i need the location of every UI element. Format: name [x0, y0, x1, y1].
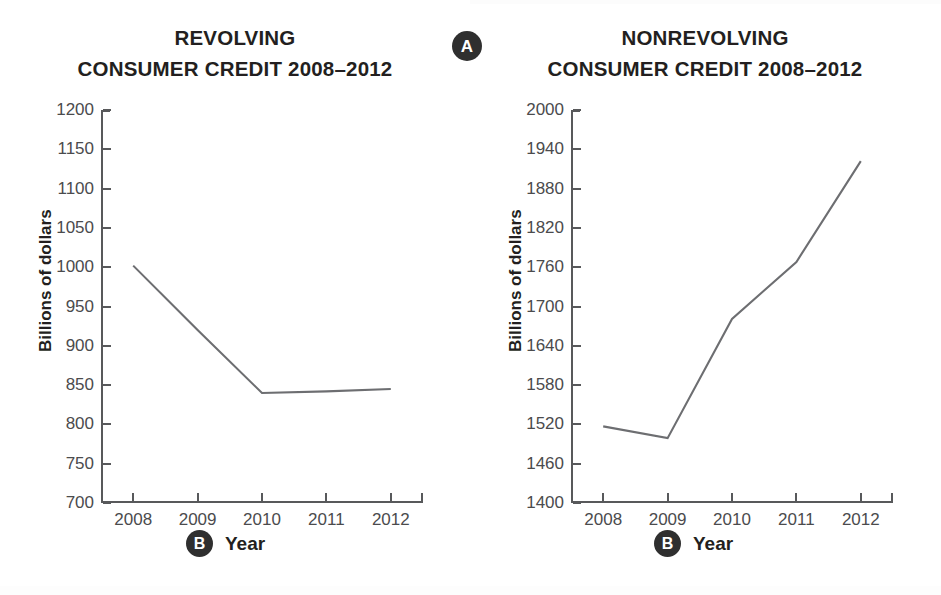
data-line-nonrevolving: [571, 110, 893, 503]
chart-title-line2: CONSUMER CREDIT 2008–2012: [0, 53, 470, 84]
y-tick-label-revolving: 1050: [56, 218, 94, 238]
x-tick-nonrevolving: [602, 493, 604, 501]
x-tick-nonrevolving: [795, 493, 797, 501]
y-tick-label-nonrevolving: 1940: [526, 139, 564, 159]
plot-area-revolving: 7007508008509009501000105011001150120020…: [101, 110, 423, 503]
y-tick-nonrevolving: [573, 148, 581, 150]
y-tick-label-revolving: 1200: [56, 100, 94, 120]
y-tick-label-nonrevolving: 1400: [526, 493, 564, 513]
plot-area-nonrevolving: 1400146015201580164017001760182018801940…: [571, 110, 893, 503]
y-tick-nonrevolving: [573, 266, 581, 268]
x-tick-revolving: [197, 493, 199, 501]
y-tick-label-revolving: 800: [66, 414, 94, 434]
y-tick-nonrevolving: [573, 306, 581, 308]
y-tick-revolving: [103, 345, 111, 347]
x-tick-label-nonrevolving: 2009: [649, 510, 687, 530]
y-tick-nonrevolving: [573, 502, 581, 504]
y-tick-revolving: [103, 227, 111, 229]
chart-panel-revolving: REVOLVING CONSUMER CREDIT 2008–2012 Bill…: [0, 0, 470, 595]
y-tick-label-nonrevolving: 1700: [526, 297, 564, 317]
y-tick-label-revolving: 1100: [57, 179, 94, 199]
y-tick-revolving: [103, 463, 111, 465]
y-tick-revolving: [103, 148, 111, 150]
x-tick-revolving: [390, 493, 392, 501]
y-tick-revolving: [103, 188, 111, 190]
chart-title-line2: CONSUMER CREDIT 2008–2012: [470, 53, 940, 84]
y-tick-label-revolving: 750: [66, 454, 94, 474]
y-tick-label-revolving: 700: [66, 493, 94, 513]
x-axis-title-revolving: B Year: [186, 530, 265, 557]
x-tick-label-nonrevolving: 2012: [842, 510, 880, 530]
y-tick-label-nonrevolving: 1880: [526, 179, 564, 199]
y-tick-label-nonrevolving: 1520: [526, 414, 564, 434]
y-tick-label-nonrevolving: 1640: [526, 336, 564, 356]
y-tick-label-revolving: 950: [66, 297, 94, 317]
scan-edge-top: [470, 0, 941, 4]
x-tick-revolving: [132, 493, 134, 501]
y-tick-label-nonrevolving: 1460: [526, 454, 564, 474]
y-tick-label-nonrevolving: 1760: [526, 257, 564, 277]
y-tick-nonrevolving: [573, 188, 581, 190]
x-tick-label-revolving: 2009: [179, 510, 217, 530]
y-tick-label-revolving: 900: [66, 336, 94, 356]
x-axis-title-text-nonrevolving: Year: [693, 533, 733, 555]
chart-title-nonrevolving: NONREVOLVING CONSUMER CREDIT 2008–2012: [470, 22, 940, 84]
y-tick-nonrevolving: [573, 345, 581, 347]
y-tick-revolving: [103, 423, 111, 425]
x-tick-label-revolving: 2008: [114, 510, 152, 530]
y-tick-label-revolving: 1000: [56, 257, 94, 277]
x-tick-label-nonrevolving: 2010: [713, 510, 751, 530]
y-tick-nonrevolving: [573, 109, 581, 111]
y-tick-label-nonrevolving: 2000: [526, 100, 564, 120]
x-axis-title-text-revolving: Year: [225, 533, 265, 555]
x-tick-nonrevolving: [860, 493, 862, 501]
x-tick-label-nonrevolving: 2008: [584, 510, 622, 530]
x-axis-title-nonrevolving: B Year: [654, 530, 733, 557]
x-tick-nonrevolving: [731, 493, 733, 501]
y-tick-revolving: [103, 306, 111, 308]
y-tick-revolving: [103, 266, 111, 268]
y-tick-revolving: [103, 502, 111, 504]
data-line-revolving: [101, 110, 423, 503]
y-tick-nonrevolving: [573, 384, 581, 386]
y-tick-revolving: [103, 109, 111, 111]
y-tick-nonrevolving: [573, 463, 581, 465]
y-tick-revolving: [103, 384, 111, 386]
y-axis-title-revolving: Billions of dollars: [36, 209, 56, 352]
chart-title-line1: REVOLVING: [174, 26, 295, 49]
chart-title-revolving: REVOLVING CONSUMER CREDIT 2008–2012: [0, 22, 470, 84]
x-tick-label-revolving: 2012: [372, 510, 410, 530]
y-axis-title-nonrevolving: Billions of dollars: [506, 209, 526, 352]
y-tick-label-revolving: 1150: [57, 139, 94, 159]
x-tick-nonrevolving: [667, 493, 669, 501]
x-tick-revolving: [261, 493, 263, 501]
chart-title-line1: NONREVOLVING: [621, 26, 788, 49]
y-tick-nonrevolving: [573, 423, 581, 425]
panel-badge-b-right: B: [654, 530, 681, 557]
x-tick-revolving: [325, 493, 327, 501]
y-tick-label-nonrevolving: 1820: [526, 218, 564, 238]
y-tick-label-nonrevolving: 1580: [526, 375, 564, 395]
x-tick-label-revolving: 2010: [243, 510, 281, 530]
y-tick-label-revolving: 850: [66, 375, 94, 395]
x-tick-label-nonrevolving: 2011: [778, 510, 815, 530]
x-tick-label-revolving: 2011: [308, 510, 345, 530]
panel-badge-b-left: B: [186, 530, 213, 557]
y-tick-nonrevolving: [573, 227, 581, 229]
scan-edge-bottom: [0, 586, 941, 595]
figure-canvas: REVOLVING CONSUMER CREDIT 2008–2012 Bill…: [0, 0, 941, 595]
